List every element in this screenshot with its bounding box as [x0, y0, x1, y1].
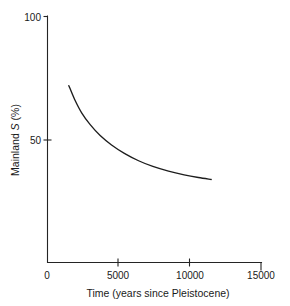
axes-group [48, 16, 262, 263]
x-tick-label-5000: 5000 [107, 270, 130, 281]
x-tick-marks [118, 259, 261, 271]
data-curve-mainland-s [69, 86, 211, 180]
x-tick-labels: 0 5000 10000 15000 [44, 270, 275, 281]
chart-plot-svg: 100 50 0 5000 10000 15000 Time (years si… [0, 0, 290, 306]
y-tick-label-50: 50 [30, 135, 42, 146]
x-tick-label-0: 0 [44, 270, 50, 281]
y-axis-title-symbol: S [9, 123, 21, 130]
y-tick-labels: 100 50 [24, 12, 41, 146]
y-axis-title-suffix: (%) [9, 104, 21, 123]
x-axis-title: Time (years since Pleistocene) [86, 287, 229, 299]
y-tick-label-100: 100 [24, 12, 41, 23]
y-axis-title-prefix: Mainland [9, 130, 21, 176]
y-axis-title: Mainland S (%) [9, 104, 21, 176]
axis-lines [48, 16, 262, 263]
x-tick-label-15000: 15000 [247, 270, 275, 281]
x-tick-label-10000: 10000 [176, 270, 204, 281]
chart-figure: 100 50 0 5000 10000 15000 Time (years si… [0, 0, 290, 306]
y-axis-title-group: Mainland S (%) [9, 104, 21, 176]
